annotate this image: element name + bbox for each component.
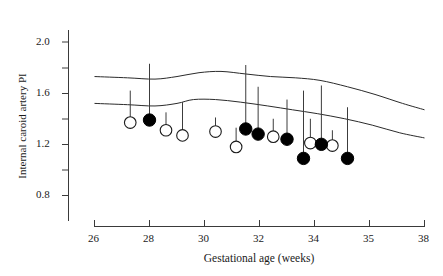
data-point-open: [124, 117, 136, 129]
chart-figure: Internal caroid artery PI Gestational ag…: [0, 0, 443, 276]
y-tick-label-1-6: 1.6: [36, 86, 50, 98]
data-point-open: [177, 130, 189, 142]
data-point-open: [305, 137, 317, 149]
x-tick-label-32: 32: [253, 232, 264, 244]
y-tick-label-0-8: 0.8: [36, 188, 50, 200]
data-point-filled: [297, 152, 309, 164]
data-point-filled: [252, 128, 264, 140]
y-tick-label-2-0: 2.0: [36, 35, 50, 47]
data-point-filled: [240, 123, 252, 135]
data-point-filled: [281, 133, 293, 145]
x-axis-title: Gestational age (weeks): [204, 252, 315, 265]
y-axis-title: Internal caroid artery PI: [16, 73, 28, 179]
data-point-open: [327, 140, 339, 152]
data-point-filled: [143, 114, 155, 126]
scatter-plot-svg: Internal caroid artery PI Gestational ag…: [0, 0, 443, 276]
upper-reference-curve: [95, 71, 425, 109]
x-tick-label-30: 30: [198, 232, 209, 244]
data-point-open: [160, 124, 172, 136]
x-axis-ticks: [95, 220, 425, 227]
x-tick-label-35: 35: [363, 232, 374, 244]
data-point-open: [230, 141, 242, 153]
y-axis-ticks: [62, 42, 69, 196]
data-point-filled: [315, 138, 327, 150]
x-tick-label-26: 26: [88, 232, 99, 244]
x-tick-label-38: 38: [418, 232, 429, 244]
data-point-filled: [341, 152, 353, 164]
x-tick-label-28: 28: [143, 232, 154, 244]
y-tick-label-1-2: 1.2: [36, 137, 50, 149]
x-tick-label-34: 34: [308, 232, 319, 244]
data-point-open: [267, 131, 279, 143]
data-point-open: [210, 126, 222, 138]
